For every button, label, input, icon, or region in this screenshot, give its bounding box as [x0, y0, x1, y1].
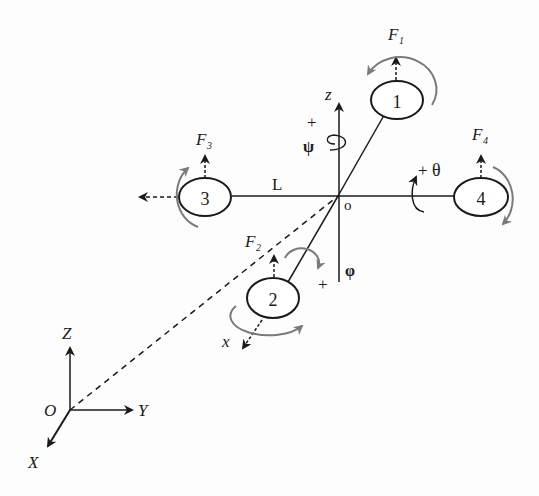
svg-text:θ: θ	[432, 160, 441, 180]
svg-text:F: F	[471, 125, 483, 144]
arms	[232, 89, 454, 282]
svg-text:3: 3	[206, 140, 212, 151]
svg-text:X: X	[27, 453, 39, 472]
svg-text:3: 3	[201, 189, 210, 209]
rotor-3: 3 F 3	[140, 130, 231, 227]
svg-text:F: F	[195, 130, 207, 149]
svg-text:Y: Y	[138, 401, 149, 420]
svg-text:O: O	[44, 401, 56, 420]
arm-length-label: L	[272, 175, 282, 194]
svg-text:F: F	[387, 25, 399, 44]
rotor-4: 4 F 4	[454, 125, 513, 224]
svg-text:1: 1	[399, 35, 404, 46]
quadrotor-diagram: 1 F 1 3 F 3 4 F 4 2 F 2 x + φ	[0, 0, 539, 496]
svg-text:F: F	[244, 232, 256, 251]
svg-text:Z: Z	[62, 324, 72, 343]
svg-text:x: x	[221, 332, 230, 351]
body-z-label: z	[324, 85, 332, 104]
roll-symbol: φ	[345, 262, 355, 280]
body-origin-label: o	[344, 197, 352, 213]
rotor-2: 2 F 2 x	[221, 232, 302, 351]
svg-text:1: 1	[393, 92, 402, 112]
svg-text:+: +	[307, 113, 317, 132]
svg-text:ψ: ψ	[303, 138, 314, 156]
rotor-1: 1 F 1	[368, 25, 436, 119]
roll-sign: +	[318, 275, 328, 294]
svg-text:2: 2	[269, 290, 278, 310]
svg-text:4: 4	[477, 189, 486, 209]
svg-text:+: +	[418, 161, 428, 180]
inertial-frame: Z Y O X	[27, 324, 149, 472]
svg-text:4: 4	[483, 135, 488, 146]
pitch-indicator: + θ	[412, 160, 440, 212]
svg-text:2: 2	[256, 242, 261, 253]
